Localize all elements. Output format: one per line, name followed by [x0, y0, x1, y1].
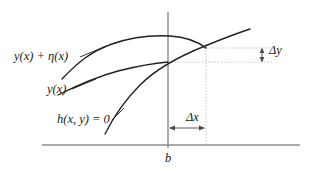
- curve-y-plus-eta: [62, 36, 206, 79]
- label-lower-curve: y(x): [47, 83, 66, 96]
- label-upper-curve: y(x) + η(x): [14, 50, 68, 63]
- delta-x-arrow: [169, 125, 205, 130]
- leader-line-y-plus-eta: [80, 47, 104, 57]
- label-constraint-curve: h(x, y) = 0: [57, 113, 110, 126]
- leader-line-h: [112, 108, 124, 120]
- curve-h-constraint: [105, 29, 250, 134]
- delta-y-arrow: [260, 48, 265, 63]
- variational-endpoint-diagram: y(x) + η(x) y(x) h(x, y) = 0 Δx Δy b: [0, 0, 318, 171]
- leader-line-y: [72, 79, 96, 89]
- label-axis-point-b: b: [165, 152, 171, 165]
- label-delta-y: Δy: [269, 44, 282, 57]
- label-delta-x: Δx: [186, 111, 199, 124]
